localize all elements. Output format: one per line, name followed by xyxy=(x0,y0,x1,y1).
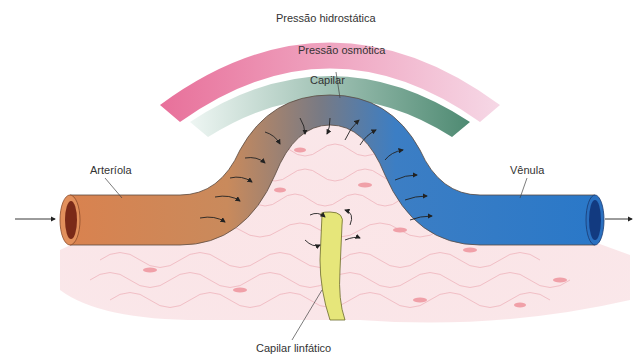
venule-label: Vênula xyxy=(510,164,544,176)
hydrostatic-pressure-label: Pressão hidrostática xyxy=(276,12,376,24)
arteriole-label: Arteríola xyxy=(90,164,132,176)
capillary-label: Capilar xyxy=(310,74,345,86)
lymphatic-capillary-label: Capilar linfático xyxy=(256,342,331,354)
capillary-exchange-diagram: Pressão hidrostática Pressão osmótica Ca… xyxy=(0,0,641,363)
osmotic-pressure-label: Pressão osmótica xyxy=(298,44,385,56)
